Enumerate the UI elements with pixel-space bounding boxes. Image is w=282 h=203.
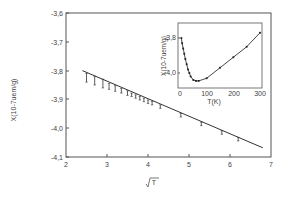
inset-data-point	[180, 37, 182, 39]
data-point	[151, 101, 153, 104]
data-point	[114, 86, 116, 92]
data-point	[130, 93, 132, 96]
y-tick-label: -3,6	[51, 10, 63, 17]
data-point	[102, 79, 104, 88]
data-point	[139, 97, 141, 100]
inset-x-axis: 0 100 200 300	[178, 90, 266, 97]
data-point	[135, 95, 137, 98]
inset-data-point	[259, 32, 261, 34]
data-point	[94, 76, 96, 85]
inset-data-point	[182, 48, 184, 50]
x-tick-label: 7	[269, 161, 273, 168]
inset-data-point	[183, 53, 185, 55]
data-point	[180, 114, 182, 117]
data-point	[120, 88, 122, 93]
data-point	[143, 98, 145, 101]
x-tick-label: 6	[228, 161, 232, 168]
data-point	[108, 84, 110, 90]
inset-data-point	[187, 69, 189, 71]
inset-data-point	[192, 79, 194, 81]
inset-x-tick-label: 100	[201, 90, 213, 97]
y-tick-label: -3,7	[51, 39, 63, 46]
x-tick-label: 2	[64, 161, 68, 168]
data-point	[85, 73, 87, 82]
inset-x-tick-label: 300	[254, 90, 266, 97]
y-tick-label: -4,1	[51, 154, 63, 161]
data-point	[159, 105, 161, 108]
inset-data-point	[184, 58, 186, 60]
data-point	[200, 122, 202, 125]
x-tick-label: 5	[187, 161, 191, 168]
inset-data-point	[246, 46, 248, 48]
y-tick-label: -3,9	[51, 96, 63, 103]
main-y-axis-label: X(10-7uem/g)	[10, 79, 18, 122]
data-point	[221, 131, 223, 134]
inset-y-axis-label: X(10-7uem/g)	[160, 36, 168, 76]
y-tick-label: -4,0	[51, 125, 63, 132]
inset-data-point	[195, 80, 197, 82]
inset-x-tick-label: 200	[228, 90, 240, 97]
data-point	[147, 100, 149, 103]
inset-data-point	[206, 77, 208, 79]
svg-text:T: T	[152, 179, 157, 186]
main-x-axis: 2 3 4 5 6 7	[64, 154, 273, 168]
inset-plot-frame	[178, 23, 262, 88]
chart-canvas: -3,6 -3,7 -3,8 -3,9 -4,0 -4,1 2 3 4 5 6 …	[0, 0, 282, 203]
y-tick-label: -3,8	[51, 68, 63, 75]
inset-x-axis-label: T(K)	[207, 98, 221, 106]
x-tick-label: 4	[146, 161, 150, 168]
inset-data-point	[198, 80, 200, 82]
inset-data-point	[186, 63, 188, 65]
data-point	[126, 91, 128, 96]
inset-data-point	[232, 56, 234, 58]
x-tick-label: 3	[105, 161, 109, 168]
inset-x-tick-label: 0	[178, 90, 182, 97]
main-x-axis-label: T	[146, 178, 159, 187]
inset-data-point	[219, 67, 221, 69]
inset-data-point	[188, 72, 190, 74]
inset-data-point	[190, 76, 192, 78]
inset-data-point	[181, 42, 183, 44]
